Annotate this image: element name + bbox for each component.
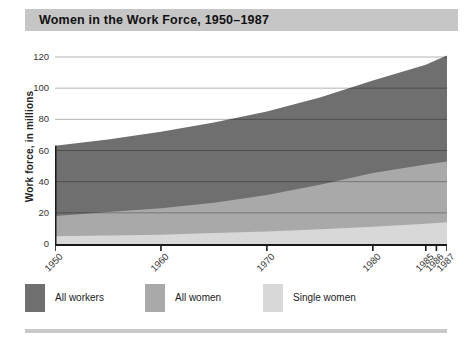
legend-swatch — [145, 284, 165, 312]
y-tick-label-100: 100 — [19, 82, 49, 93]
y-tick-label-20: 20 — [19, 207, 49, 218]
x-tick-label-1950: 1950 — [32, 251, 65, 284]
x-tick-label-1980: 1980 — [349, 251, 382, 284]
area-chart — [55, 46, 447, 252]
legend-swatch — [25, 284, 45, 312]
chart-title-bar: Women in the Work Force, 1950–1987 — [25, 9, 458, 31]
chart-title: Women in the Work Force, 1950–1987 — [25, 9, 458, 31]
legend-label: Single women — [293, 292, 356, 303]
chart-legend: All workersAll womenSingle women — [25, 284, 455, 314]
y-tick-label-120: 120 — [19, 51, 49, 62]
y-tick-label-80: 80 — [19, 113, 49, 124]
y-tick-label-40: 40 — [19, 176, 49, 187]
legend-label: All workers — [55, 292, 104, 303]
bottom-divider — [25, 329, 447, 333]
y-tick-label-0: 0 — [19, 238, 49, 249]
chart-page: Women in the Work Force, 1950–1987 Work … — [0, 0, 473, 339]
x-tick-label-1960: 1960 — [137, 251, 170, 284]
legend-swatch — [263, 284, 283, 312]
legend-label: All women — [175, 292, 221, 303]
x-tick-label-1970: 1970 — [243, 251, 276, 284]
y-tick-label-60: 60 — [19, 145, 49, 156]
